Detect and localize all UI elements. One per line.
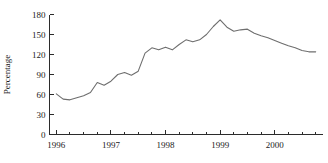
y-tick-label: 60 <box>37 90 47 100</box>
y-tick-label: 180 <box>32 10 46 20</box>
y-tick-label: 150 <box>32 30 46 40</box>
x-axis-ticks <box>56 130 315 135</box>
line-chart: 0306090120150180 19961997199819992000 Pe… <box>0 0 328 163</box>
y-axis-title-text: Percentage <box>2 55 12 94</box>
axis-spines <box>50 15 323 135</box>
x-tick-label: 2000 <box>266 140 285 150</box>
x-axis-tick-labels: 19961997199819992000 <box>47 140 284 150</box>
y-tick-label: 120 <box>32 50 46 60</box>
y-tick-label: 30 <box>37 110 47 120</box>
y-tick-label: 90 <box>37 70 47 80</box>
y-axis-ticks <box>50 15 54 135</box>
y-axis-title: Percentage <box>2 55 12 94</box>
axes <box>50 15 323 135</box>
x-tick-label: 1998 <box>157 140 176 150</box>
y-axis-tick-labels: 0306090120150180 <box>32 10 46 140</box>
series-path <box>56 20 315 100</box>
x-tick-label: 1996 <box>47 140 66 150</box>
x-tick-label: 1999 <box>211 140 230 150</box>
data-series-line <box>56 20 315 100</box>
x-tick-label: 1997 <box>102 140 121 150</box>
y-tick-label: 0 <box>41 130 46 140</box>
chart-container: 0306090120150180 19961997199819992000 Pe… <box>0 0 328 163</box>
